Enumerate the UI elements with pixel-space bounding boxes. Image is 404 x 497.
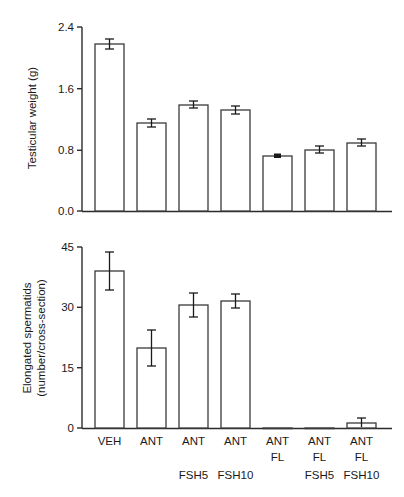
catlabel-ant-fsh5-line1: ANT [182,435,205,447]
top-ytick-label-2-4: 2.4 [58,21,75,33]
top-bar-ant-fl-fsh10[interactable] [347,143,376,211]
top-y-axis-label: Testicular weight (g) [26,67,38,169]
x-axis-category-labels: VEH ANT ANT FSH5 ANT FSH10 ANT FL ANT FL… [98,435,380,481]
catlabel-ant-fsh5-line3: FSH5 [179,469,208,481]
panel-testicular-weight: Testicular weight (g) 2.4 1.6 0.8 0.0 [26,21,392,217]
catlabel-ant-fsh10-line3: FSH10 [218,469,254,481]
catlabel-ant-fsh10-line1: ANT [224,435,247,447]
bottom-ytick-label-0: 0 [68,422,74,434]
top-bar-ant-fsh10[interactable] [221,110,250,211]
top-bar-ant-fl-fsh5[interactable] [305,150,334,211]
bottom-bar-ant-fsh10[interactable] [221,301,250,428]
catlabel-ant-line1: ANT [140,435,163,447]
top-ytick-label-0-0: 0.0 [58,205,74,217]
top-ytick-label-1-6: 1.6 [58,83,74,95]
bottom-bar-ant-fsh5[interactable] [179,305,208,428]
bottom-y-axis-label-line1: Elongated spermatids [21,282,33,393]
bottom-ytick-label-15: 15 [61,362,74,374]
top-bar-ant-fl[interactable] [263,156,292,211]
top-error-bar-ant-fl [274,154,281,159]
catlabel-ant-fl-fsh5-line1: ANT [308,435,331,447]
top-bar-veh[interactable] [95,44,124,211]
bottom-y-axis-label-line2: (number/cross-section) [35,279,47,397]
figure-container: Testicular weight (g) 2.4 1.6 0.8 0.0 [0,0,404,497]
catlabel-ant-fl-fsh5-line3: FSH5 [305,469,334,481]
panel-elongated-spermatids: Elongated spermatids (number/cross-secti… [21,241,392,481]
bottom-bar-veh[interactable] [95,271,124,428]
top-bar-ant-fsh5[interactable] [179,105,208,211]
catlabel-ant-fl-fsh5-line2: FL [313,451,327,463]
top-bar-ant[interactable] [137,123,166,211]
catlabel-ant-fl-fsh10-line2: FL [355,451,369,463]
bottom-bar-ant-fl-fsh5[interactable] [305,428,334,429]
bottom-ytick-label-30: 30 [61,301,74,313]
top-ytick-label-0-8: 0.8 [58,144,74,156]
catlabel-veh-line1: VEH [98,435,122,447]
catlabel-ant-fl-fsh10-line1: ANT [350,435,373,447]
bottom-bar-ant-fl[interactable] [263,428,292,429]
figure-svg: Testicular weight (g) 2.4 1.6 0.8 0.0 [0,0,404,497]
catlabel-ant-fl-fsh10-line3: FSH10 [344,469,380,481]
catlabel-ant-fl-line1: ANT [266,435,289,447]
catlabel-ant-fl-line2: FL [271,451,285,463]
bottom-ytick-label-45: 45 [61,241,74,253]
top-bars [95,44,376,211]
